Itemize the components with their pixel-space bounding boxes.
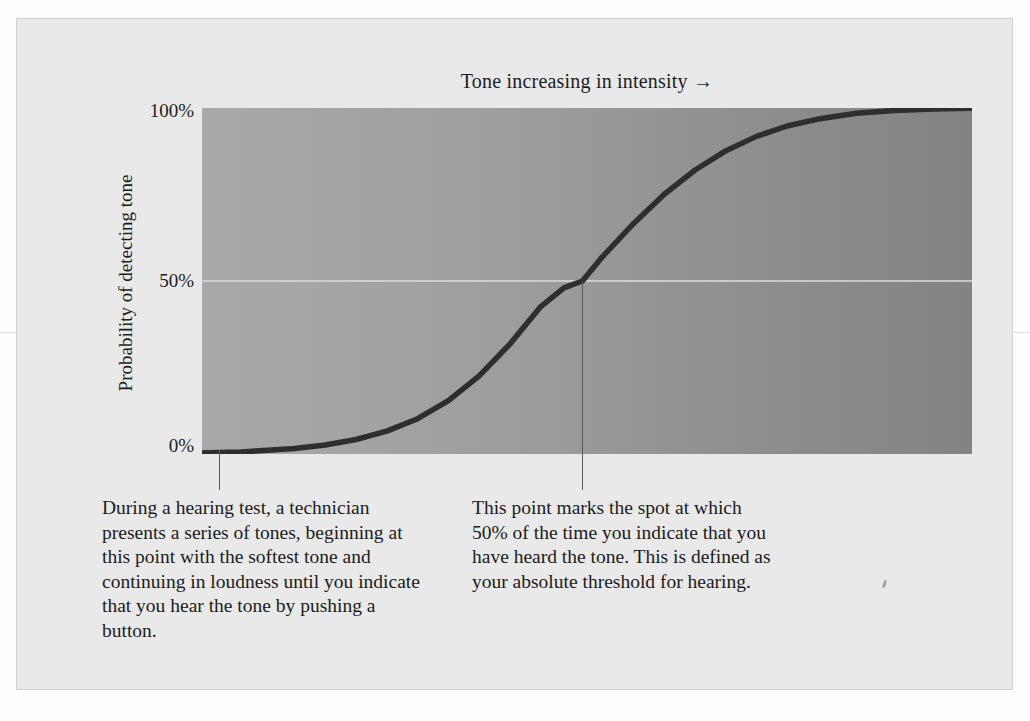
y-tick-label-0: 0% (124, 435, 194, 457)
psychometric-curve-plot (202, 108, 972, 454)
chart-title: Tone increasing in intensity → (202, 70, 972, 93)
scanned-page: Tone increasing in intensity → Probabili… (0, 0, 1030, 721)
figure-card: Tone increasing in intensity → Probabili… (16, 18, 1013, 690)
leader-line-start-of-test (219, 450, 220, 490)
caption-absolute-threshold: This point marks the spot at which 50% o… (472, 496, 782, 594)
caption-start-of-test: During a hearing test, a technician pres… (102, 496, 422, 643)
ink-speck-artifact (882, 580, 887, 589)
y-tick-label-50: 50% (124, 270, 194, 292)
plot-area (202, 108, 972, 454)
leader-line-absolute-threshold (582, 282, 583, 490)
y-tick-label-100: 100% (124, 100, 194, 122)
